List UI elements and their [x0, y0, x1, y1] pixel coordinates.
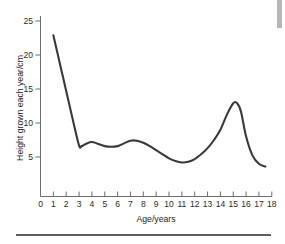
x-tick-label-2: 2	[64, 199, 69, 209]
y-axis-ticks	[36, 21, 41, 157]
x-tick-label-17: 17	[254, 199, 264, 209]
y-axis: 510152025 Height grown each year/cm	[15, 16, 41, 196]
growth-rate-chart-figure: 510152025 Height grown each year/cm 0123…	[0, 0, 285, 244]
scrollbar-thumb[interactable]	[277, 0, 282, 28]
x-axis: 0123456789101112131415161718 Age/years	[38, 192, 277, 225]
x-axis-title: Age/years	[136, 214, 176, 224]
x-tick-label-18: 18	[267, 199, 277, 209]
x-tick-label-3: 3	[77, 199, 82, 209]
x-tick-label-12: 12	[190, 199, 200, 209]
y-axis-title: Height grown each year/cm	[15, 55, 25, 161]
x-tick-label-1: 1	[51, 199, 56, 209]
x-tick-label-11: 11	[177, 199, 186, 209]
x-tick-label-8: 8	[141, 199, 146, 209]
x-tick-label-10: 10	[164, 199, 174, 209]
x-tick-label-7: 7	[128, 199, 133, 209]
x-tick-label-16: 16	[241, 199, 251, 209]
x-tick-label-0: 0	[38, 199, 43, 209]
x-axis-ticks	[41, 192, 272, 197]
x-tick-label-5: 5	[102, 199, 107, 209]
chart-canvas: 510152025 Height grown each year/cm 0123…	[0, 0, 285, 244]
data-series-group	[53, 35, 265, 166]
bottom-divider	[16, 234, 271, 236]
x-tick-label-14: 14	[216, 199, 226, 209]
x-tick-label-6: 6	[115, 199, 120, 209]
x-tick-label-13: 13	[203, 199, 213, 209]
x-tick-label-4: 4	[90, 199, 95, 209]
data-curve-0	[53, 35, 265, 166]
x-tick-label-9: 9	[154, 199, 159, 209]
y-tick-label-5: 5	[28, 152, 33, 162]
y-tick-label-25: 25	[24, 16, 34, 26]
x-axis-tick-labels: 0123456789101112131415161718	[38, 199, 277, 209]
x-tick-label-15: 15	[229, 199, 239, 209]
